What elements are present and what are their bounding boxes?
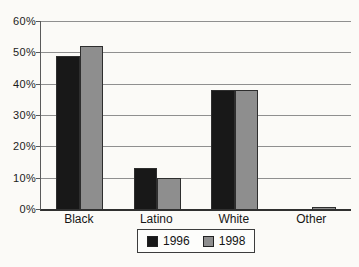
y-tick-label-10: 10% bbox=[2, 172, 36, 184]
y-tick-20 bbox=[36, 146, 40, 147]
x-category-label-latino: Latino bbox=[140, 212, 173, 226]
bar-1998-white bbox=[235, 90, 259, 209]
y-tick-40 bbox=[36, 84, 40, 85]
bar-1996-latino bbox=[134, 168, 158, 209]
legend-label-1996: 1996 bbox=[163, 234, 190, 248]
x-category-label-other: Other bbox=[296, 212, 326, 226]
y-tick-label-20: 20% bbox=[2, 140, 36, 152]
legend-label-1998: 1998 bbox=[219, 234, 246, 248]
y-tick-10 bbox=[36, 178, 40, 179]
bar-1996-black bbox=[56, 56, 80, 210]
y-tick-label-0: 0% bbox=[2, 203, 36, 215]
x-category-label-white: White bbox=[218, 212, 249, 226]
y-tick-60 bbox=[36, 21, 40, 22]
plot-area bbox=[40, 21, 351, 211]
bar-chart: 0%10%20%30%40%50%60% BlackLatinoWhiteOth… bbox=[0, 0, 359, 267]
bar-1998-latino bbox=[157, 178, 181, 209]
y-tick-label-50: 50% bbox=[2, 46, 36, 58]
legend-item-1998: 1998 bbox=[203, 234, 246, 248]
bar-1998-other bbox=[312, 207, 336, 209]
y-tick-label-40: 40% bbox=[2, 78, 36, 90]
legend: 1996 1998 bbox=[137, 229, 255, 253]
y-tick-0 bbox=[36, 209, 40, 210]
legend-swatch-1998 bbox=[203, 236, 214, 247]
legend-swatch-1996 bbox=[147, 236, 158, 247]
y-tick-30 bbox=[36, 115, 40, 116]
x-category-label-black: Black bbox=[64, 212, 93, 226]
y-tick-label-30: 30% bbox=[2, 109, 36, 121]
gridline-60 bbox=[41, 21, 351, 22]
y-tick-50 bbox=[36, 52, 40, 53]
bar-1996-white bbox=[211, 90, 235, 209]
y-tick-label-60: 60% bbox=[2, 15, 36, 27]
legend-item-1996: 1996 bbox=[147, 234, 190, 248]
bar-1998-black bbox=[80, 46, 104, 209]
scanned-chart-page: 0%10%20%30%40%50%60% BlackLatinoWhiteOth… bbox=[0, 0, 359, 267]
